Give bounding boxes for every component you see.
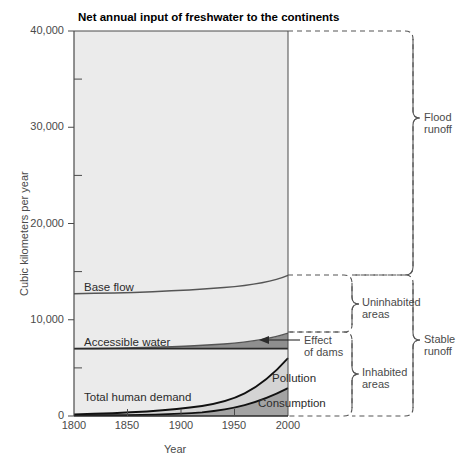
effect-of-dams-label-line1: Effect [304, 334, 332, 347]
flood-runoff-bracket-spine [405, 39, 420, 275]
y-tick-label-30000: 30,000 [0, 120, 64, 132]
x-tick-label-1800: 1800 [54, 419, 94, 431]
accessible-water-label: Accessible water [84, 336, 170, 349]
pollution-label: Pollution [272, 372, 316, 385]
y-axis-title: Cubic kilometers per year [18, 171, 30, 296]
stable-runoff-bracket-label-line2: runoff [424, 345, 452, 358]
plot-background [74, 31, 288, 416]
x-tick-label-1850: 1850 [107, 419, 147, 431]
x-tick-label-1950: 1950 [214, 419, 254, 431]
inhabited-areas-bracket-label-line2: areas [362, 378, 390, 391]
uninhabited-areas-bracket-label-line2: areas [362, 308, 390, 321]
consumption-label: Consumption [258, 397, 326, 410]
flood-runoff-bracket-label-line2: runoff [424, 123, 452, 136]
base-flow-label: Base flow [84, 281, 134, 294]
y-tick-label-20000: 20,000 [0, 217, 64, 229]
chart-figure: Net annual input of freshwater to the co… [0, 0, 464, 474]
uninhabited-areas-bracket-spine [352, 283, 359, 325]
chart-title: Net annual input of freshwater to the co… [78, 11, 339, 23]
x-axis-title: Year [164, 443, 186, 455]
effect-of-dams-label-line2: of dams [304, 346, 343, 359]
y-tick-label-40000: 40,000 [0, 24, 64, 36]
flood-runoff-bracket [288, 31, 420, 275]
uninhabited-areas-bracket [288, 275, 359, 332]
inhabited-areas-bracket-spine [352, 340, 359, 408]
x-tick-label-2000: 2000 [268, 419, 308, 431]
y-tick-label-10000: 10,000 [0, 313, 64, 325]
x-tick-label-1900: 1900 [161, 419, 201, 431]
chart-canvas [0, 0, 464, 474]
total-human-demand-label: Total human demand [84, 391, 191, 404]
